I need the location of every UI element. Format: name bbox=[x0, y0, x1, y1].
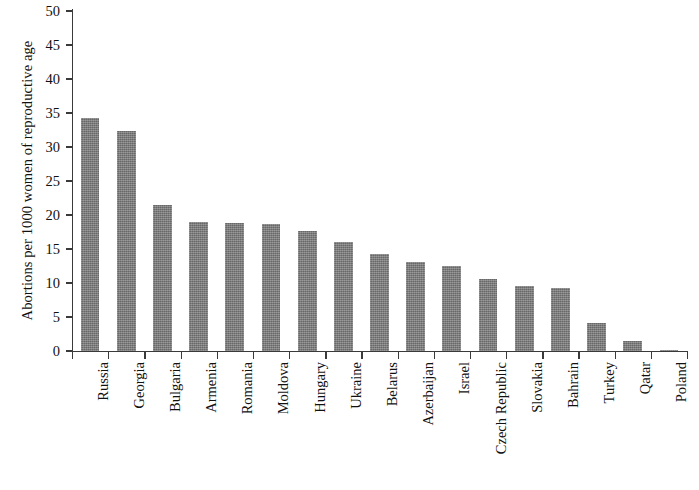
x-tick-mark bbox=[325, 352, 326, 359]
y-tick-label: 30 bbox=[20, 140, 60, 155]
x-tick-label: Poland bbox=[674, 362, 689, 490]
x-tick-label: Georgia bbox=[132, 362, 147, 490]
bar bbox=[334, 242, 353, 351]
y-tick-label: 40 bbox=[20, 72, 60, 87]
bar bbox=[117, 131, 136, 351]
x-tick-label: Moldova bbox=[276, 362, 291, 490]
x-tick-mark bbox=[506, 352, 507, 359]
bar bbox=[262, 224, 281, 351]
x-tick-mark bbox=[108, 352, 109, 359]
bar bbox=[406, 262, 425, 351]
y-tick-label: 45 bbox=[20, 38, 60, 53]
x-axis-line bbox=[72, 351, 688, 352]
y-tick-label: 15 bbox=[20, 242, 60, 257]
bar bbox=[225, 223, 244, 351]
y-tick-label: 5 bbox=[20, 310, 60, 325]
bar bbox=[515, 286, 534, 351]
x-tick-label: Bahrain bbox=[566, 362, 581, 490]
x-tick-label: Hungary bbox=[313, 362, 328, 490]
bar bbox=[587, 323, 606, 351]
bar-chart: Abortions per 1000 women of reproductive… bbox=[0, 0, 699, 490]
x-tick-mark bbox=[361, 352, 362, 359]
x-tick-label: Bulgaria bbox=[168, 362, 183, 490]
bar bbox=[551, 288, 570, 351]
bar bbox=[370, 254, 389, 351]
x-tick-mark bbox=[687, 352, 688, 359]
x-tick-mark bbox=[615, 352, 616, 359]
plot-area bbox=[72, 11, 687, 351]
y-tick-label: 20 bbox=[20, 208, 60, 223]
x-tick-label: Czech Republic bbox=[494, 362, 509, 490]
x-tick-label: Armenia bbox=[204, 362, 219, 490]
bar bbox=[153, 205, 172, 351]
x-tick-label: Israel bbox=[457, 362, 472, 490]
x-tick-label: Slovakia bbox=[530, 362, 545, 490]
x-tick-mark bbox=[398, 352, 399, 359]
bar bbox=[442, 266, 461, 351]
x-tick-mark bbox=[542, 352, 543, 359]
x-tick-mark bbox=[253, 352, 254, 359]
x-tick-mark bbox=[578, 352, 579, 359]
x-tick-label: Romania bbox=[240, 362, 255, 490]
x-tick-mark bbox=[289, 352, 290, 359]
bar bbox=[660, 350, 679, 351]
bar bbox=[623, 341, 642, 351]
bar bbox=[479, 279, 498, 351]
x-tick-mark bbox=[72, 352, 73, 359]
y-tick-label: 10 bbox=[20, 276, 60, 291]
x-tick-label: Ukraine bbox=[349, 362, 364, 490]
x-tick-label: Azerbaijan bbox=[421, 362, 436, 490]
x-tick-mark bbox=[470, 352, 471, 359]
x-tick-mark bbox=[217, 352, 218, 359]
x-tick-label: Russia bbox=[96, 362, 111, 490]
x-tick-label: Belarus bbox=[385, 362, 400, 490]
y-tick-label: 0 bbox=[20, 344, 60, 359]
x-tick-label: Qatar bbox=[638, 362, 653, 490]
bar bbox=[81, 118, 100, 351]
x-tick-mark bbox=[651, 352, 652, 359]
bar bbox=[298, 231, 317, 351]
y-tick-label: 35 bbox=[20, 106, 60, 121]
x-tick-label: Turkey bbox=[602, 362, 617, 490]
y-tick-label: 50 bbox=[20, 4, 60, 19]
x-tick-mark bbox=[434, 352, 435, 359]
x-tick-mark bbox=[181, 352, 182, 359]
x-tick-mark bbox=[144, 352, 145, 359]
bar bbox=[189, 222, 208, 351]
y-tick-label: 25 bbox=[20, 174, 60, 189]
